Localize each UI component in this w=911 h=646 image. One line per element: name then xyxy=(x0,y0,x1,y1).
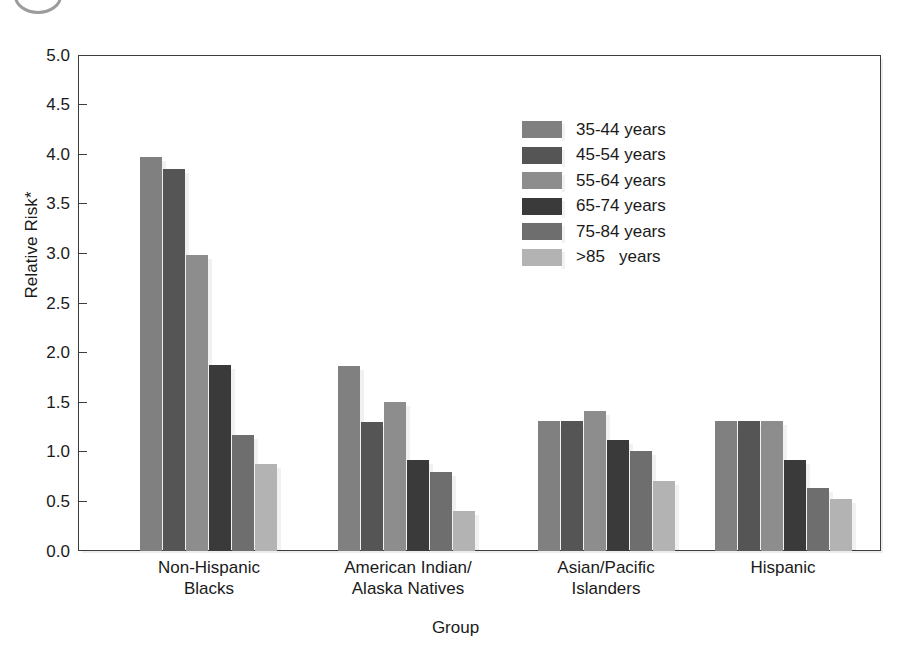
bar[interactable] xyxy=(407,460,429,551)
x-axis-category-label: Non-HispanicBlacks xyxy=(99,557,319,599)
y-axis-tick-label: 5.0 xyxy=(46,46,78,63)
bar[interactable] xyxy=(561,421,583,551)
bar-slot xyxy=(807,55,830,551)
bar-slot xyxy=(453,55,476,551)
bar[interactable] xyxy=(186,255,208,551)
legend-swatch xyxy=(522,249,562,266)
x-axis-category-label-line: Blacks xyxy=(99,578,319,599)
bar[interactable] xyxy=(715,421,737,551)
x-axis-category-label-line: Non-Hispanic xyxy=(99,557,319,578)
legend-label: 65-74 years xyxy=(576,196,666,216)
legend-swatch xyxy=(522,223,562,240)
bar[interactable] xyxy=(140,157,162,551)
bar-slot xyxy=(430,55,453,551)
y-axis-tick-label: 4.5 xyxy=(46,96,78,113)
y-axis-tick-label: 3.5 xyxy=(46,195,78,212)
x-axis-category-labels: Non-HispanicBlacksAmerican Indian/Alaska… xyxy=(78,557,881,617)
bar-slot xyxy=(255,55,278,551)
bar[interactable] xyxy=(430,472,452,551)
bar-slot xyxy=(784,55,807,551)
legend-item[interactable]: >85 years xyxy=(522,245,666,271)
bar[interactable] xyxy=(232,435,254,551)
bar[interactable] xyxy=(784,460,806,551)
bar-slot xyxy=(140,55,163,551)
bar[interactable] xyxy=(255,464,277,551)
figure-container: Relative Risk* 0.00.51.01.52.02.53.03.54… xyxy=(0,0,911,646)
y-axis-tick-label: 2.5 xyxy=(46,294,78,311)
legend-label: 35-44 years xyxy=(576,120,666,140)
x-axis-category-label: Hispanic xyxy=(673,557,893,578)
y-axis-tick-label: 3.0 xyxy=(46,244,78,261)
bar[interactable] xyxy=(338,366,360,552)
bar-slot xyxy=(209,55,232,551)
bar-slot xyxy=(361,55,384,551)
bar-slot xyxy=(830,55,853,551)
bar[interactable] xyxy=(361,422,383,551)
x-axis-category-label-line: American Indian/ xyxy=(298,557,518,578)
bar-group xyxy=(140,55,278,551)
x-axis-category-label-line: Alaska Natives xyxy=(298,578,518,599)
bar-slot xyxy=(163,55,186,551)
y-axis-tick-label: 0.5 xyxy=(46,492,78,509)
bar-slot xyxy=(738,55,761,551)
y-axis-tick-label: 4.0 xyxy=(46,145,78,162)
y-axis-ticks: 0.00.51.01.52.02.53.03.54.04.55.0 xyxy=(0,55,78,551)
y-axis-tick-label: 0.0 xyxy=(46,542,78,559)
legend-swatch xyxy=(522,198,562,215)
bar[interactable] xyxy=(830,499,852,551)
bar-slot xyxy=(232,55,255,551)
cropped-circle-mark-icon xyxy=(14,0,62,14)
bar-slot xyxy=(761,55,784,551)
bar[interactable] xyxy=(584,411,606,551)
bar-group xyxy=(338,55,476,551)
x-axis-category-label-line: Hispanic xyxy=(673,557,893,578)
legend-label: >85 years xyxy=(576,247,661,267)
bar-slot xyxy=(186,55,209,551)
bar[interactable] xyxy=(738,421,760,551)
bar[interactable] xyxy=(209,365,231,551)
legend-swatch xyxy=(522,172,562,189)
legend: 35-44 years45-54 years55-64 years65-74 y… xyxy=(522,117,666,270)
legend-item[interactable]: 35-44 years xyxy=(522,117,666,143)
bar[interactable] xyxy=(453,511,475,551)
legend-item[interactable]: 65-74 years xyxy=(522,194,666,220)
legend-label: 45-54 years xyxy=(576,145,666,165)
bar-slot xyxy=(407,55,430,551)
x-axis-category-label: American Indian/Alaska Natives xyxy=(298,557,518,599)
legend-label: 55-64 years xyxy=(576,171,666,191)
legend-swatch xyxy=(522,121,562,138)
bar[interactable] xyxy=(384,402,406,551)
bar-group xyxy=(715,55,853,551)
y-axis-tick-label: 2.0 xyxy=(46,344,78,361)
bar[interactable] xyxy=(807,488,829,551)
legend-item[interactable]: 75-84 years xyxy=(522,219,666,245)
x-axis-category-label-line: Islanders xyxy=(496,578,716,599)
x-axis-title: Group xyxy=(0,618,911,638)
plot-area xyxy=(78,55,881,551)
bar-slot xyxy=(338,55,361,551)
bar[interactable] xyxy=(163,169,185,551)
y-axis-tick-label: 1.0 xyxy=(46,443,78,460)
bar[interactable] xyxy=(761,421,783,551)
bar-slot xyxy=(715,55,738,551)
legend-item[interactable]: 55-64 years xyxy=(522,168,666,194)
bar[interactable] xyxy=(607,440,629,551)
y-axis-tick-label: 1.5 xyxy=(46,393,78,410)
legend-label: 75-84 years xyxy=(576,222,666,242)
bar-slot xyxy=(384,55,407,551)
bar[interactable] xyxy=(630,451,652,551)
legend-swatch xyxy=(522,147,562,164)
bar[interactable] xyxy=(653,481,675,551)
legend-item[interactable]: 45-54 years xyxy=(522,143,666,169)
bar[interactable] xyxy=(538,421,560,551)
